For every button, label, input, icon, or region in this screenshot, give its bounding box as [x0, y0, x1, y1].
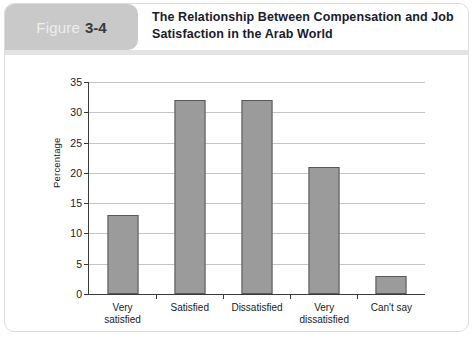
- figure-number-tab: Figure 3-4: [5, 4, 138, 50]
- x-tick-mark: [290, 294, 291, 299]
- bar[interactable]: [309, 167, 340, 294]
- y-tick-label: 35: [70, 76, 82, 88]
- bar-slot: Very satisfied: [89, 82, 156, 294]
- bar-slot: Very dissatisfied: [291, 82, 358, 294]
- y-tick-label: 20: [70, 167, 82, 179]
- y-tick-label: 5: [76, 258, 82, 270]
- figure-header: Figure 3-4 The Relationship Between Comp…: [5, 4, 468, 55]
- figure-title-line-1: The Relationship Between Compensation an…: [152, 9, 460, 26]
- bar-slot: Can't say: [358, 82, 425, 294]
- bar-slot: Satisfied: [156, 82, 223, 294]
- figure-label-word: Figure: [36, 19, 80, 36]
- y-tick-label: 0: [76, 288, 82, 300]
- bars-group: Very satisfiedSatisfiedDissatisfiedVery …: [89, 82, 425, 294]
- bar[interactable]: [174, 100, 205, 294]
- figure-title: The Relationship Between Compensation an…: [152, 9, 460, 43]
- x-tick-mark: [357, 294, 358, 299]
- figure-number: 3-4: [85, 19, 107, 36]
- y-tick-label: 15: [70, 197, 82, 209]
- y-tick-label: 25: [70, 137, 82, 149]
- y-axis-title: Percentage: [51, 137, 62, 188]
- bar[interactable]: [107, 215, 138, 294]
- x-tick-label: Can't say: [351, 302, 431, 314]
- x-tick-mark: [156, 294, 157, 299]
- bar[interactable]: [376, 276, 407, 294]
- bar-slot: Dissatisfied: [223, 82, 290, 294]
- y-tick-label: 10: [70, 227, 82, 239]
- y-tick-mark: [84, 294, 89, 295]
- figure-container: Figure 3-4 The Relationship Between Comp…: [4, 3, 469, 332]
- chart-area: Percentage 05101520253035 Very satisfied…: [5, 55, 468, 331]
- y-tick-label: 30: [70, 106, 82, 118]
- figure-title-line-2: Satisfaction in the Arab World: [152, 26, 460, 43]
- x-tick-mark: [223, 294, 224, 299]
- bar[interactable]: [242, 100, 273, 294]
- plot-region: 05101520253035 Very satisfiedSatisfiedDi…: [88, 82, 425, 295]
